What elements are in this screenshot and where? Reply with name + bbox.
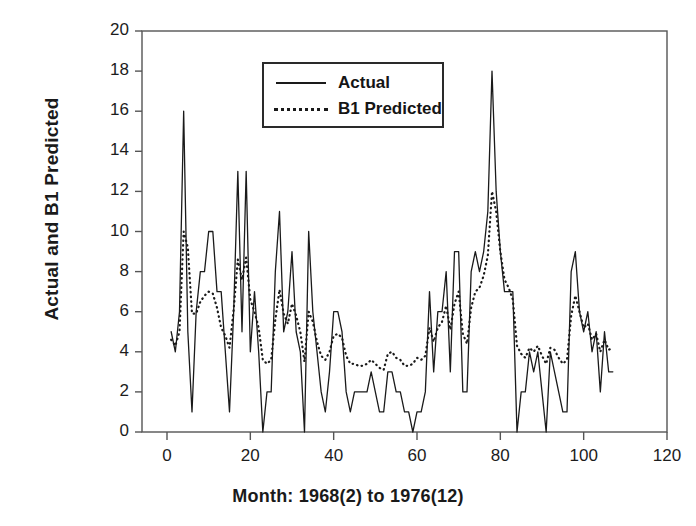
chart-figure: Actual and B1 Predicted Month: 1968(2) t… bbox=[0, 0, 696, 526]
legend-label-b1-predicted: B1 Predicted bbox=[338, 99, 442, 119]
legend-dotted-line-icon bbox=[272, 102, 330, 116]
legend-label-actual: Actual bbox=[338, 73, 390, 93]
chart-legend: Actual B1 Predicted bbox=[262, 62, 444, 128]
series-line-b1-predicted bbox=[171, 191, 613, 369]
legend-entry-actual: Actual bbox=[272, 70, 390, 96]
legend-solid-line-icon bbox=[272, 76, 330, 90]
legend-entry-b1-predicted: B1 Predicted bbox=[272, 96, 442, 122]
